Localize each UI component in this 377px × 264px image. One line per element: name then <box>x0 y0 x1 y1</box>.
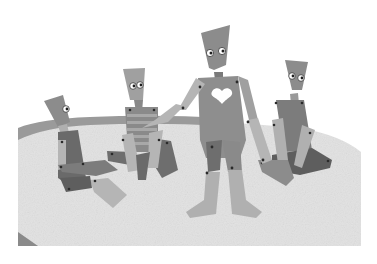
illustration-scene <box>0 0 377 264</box>
seated-right-puppet <box>258 60 332 186</box>
puppets-illustration <box>0 0 377 264</box>
